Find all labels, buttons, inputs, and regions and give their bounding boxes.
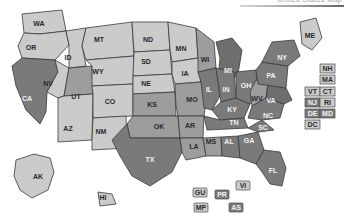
state-label-ne: NE [141, 80, 151, 87]
state-label-wa: WA [33, 20, 44, 27]
inset-chip-nh[interactable]: NH [320, 64, 335, 73]
territory-label-gu: GU [195, 189, 206, 196]
state-label-nv: NV [43, 80, 53, 87]
state-ne[interactable] [133, 74, 175, 94]
state-label-ga: GA [244, 137, 255, 144]
state-label-al: AL [224, 138, 234, 145]
inset-chip-label-ri: RI [324, 99, 331, 106]
territory-label-as: AS [231, 204, 241, 211]
state-label-ar: AR [185, 122, 195, 129]
state-label-in: IN [223, 86, 230, 93]
state-label-va: VA [266, 97, 275, 104]
state-label-mo: MO [186, 96, 198, 103]
inset-chip-label-vt: VT [308, 88, 318, 95]
state-label-nd: ND [143, 36, 153, 43]
state-sd[interactable] [133, 50, 172, 76]
state-label-nm: NM [96, 128, 107, 135]
state-wi[interactable] [196, 28, 216, 72]
state-label-sc: SC [258, 124, 268, 131]
state-label-oh: OH [241, 82, 252, 89]
state-label-pa: PA [266, 72, 275, 79]
territory-label-vi: VI [240, 182, 247, 189]
inset-chip-de[interactable]: DE [305, 109, 320, 118]
territory-vi[interactable]: VI [236, 181, 250, 190]
state-label-me: ME [305, 32, 316, 39]
inset-chip-label-ct: CT [323, 88, 333, 95]
inset-chips-layer[interactable]: NHMAVTCTNJRIDEMDDC [305, 64, 335, 129]
state-label-hi: HI [100, 194, 107, 201]
state-label-co: CO [105, 98, 116, 105]
state-label-mi: MI [224, 67, 232, 74]
state-az[interactable] [58, 94, 93, 142]
state-label-wi: WI [201, 56, 210, 63]
inset-chip-dc[interactable]: DC [305, 120, 320, 129]
states-layer [12, 10, 322, 206]
state-label-ky: KY [227, 106, 237, 113]
inset-chip-label-md: MD [322, 110, 333, 117]
territory-gu[interactable]: GU [193, 188, 207, 197]
inset-chip-ma[interactable]: MA [320, 75, 335, 84]
state-label-il: IL [206, 86, 213, 93]
inset-chip-vt[interactable]: VT [305, 87, 320, 96]
territory-label-pr: PR [217, 191, 227, 198]
inset-chip-label-ma: MA [322, 76, 333, 83]
state-label-az: AZ [63, 125, 73, 132]
inset-chip-label-de: DE [308, 110, 318, 117]
state-label-fl: FL [269, 167, 278, 174]
territory-label-mp: MP [196, 204, 207, 211]
state-label-nc: NC [263, 112, 273, 119]
inset-chip-nj[interactable]: NJ [305, 98, 320, 107]
state-label-ut: UT [71, 93, 81, 100]
inset-chip-ct[interactable]: CT [320, 87, 335, 96]
inset-chip-label-nh: NH [322, 65, 332, 72]
territory-mp[interactable]: MP [194, 203, 208, 212]
state-label-sd: SD [141, 58, 151, 65]
inset-chip-ri[interactable]: RI [320, 98, 335, 107]
state-label-id: ID [65, 54, 72, 61]
state-mt[interactable] [82, 22, 134, 60]
state-label-tx: TX [146, 156, 155, 163]
state-mn[interactable] [168, 22, 198, 62]
us-map-svg[interactable]: WAORCAIDNVUTAZMTWYCONMNDSDNEKSOKTXMNIAMO… [0, 0, 344, 218]
state-label-wv: WV [251, 95, 263, 102]
inset-chip-md[interactable]: MD [320, 109, 335, 118]
territories-layer[interactable]: GUPRVIMPAS [193, 181, 250, 212]
state-label-ks: KS [147, 101, 157, 108]
state-label-la: LA [189, 143, 198, 150]
state-label-wy: WY [92, 68, 104, 75]
state-label-ny: NY [277, 54, 287, 61]
state-label-ms: MS [206, 138, 217, 145]
state-label-ok: OK [154, 123, 165, 130]
state-label-ia: IA [182, 70, 189, 77]
header-rule [240, 5, 344, 7]
state-label-tn: TN [229, 119, 238, 126]
state-label-ak: AK [33, 173, 43, 180]
header-cut-text: United States Map [232, 0, 342, 4]
state-label-mn: MN [176, 45, 187, 52]
state-label-mt: MT [94, 36, 105, 43]
state-label-or: OR [26, 44, 37, 51]
inset-chip-label-nj: NJ [308, 99, 317, 106]
territory-pr[interactable]: PR [215, 190, 229, 199]
territory-as[interactable]: AS [229, 203, 243, 212]
state-label-ca: CA [22, 95, 32, 102]
us-map-figure: United States Map [0, 0, 344, 218]
inset-chip-label-dc: DC [307, 121, 317, 128]
state-ut[interactable] [64, 66, 93, 96]
